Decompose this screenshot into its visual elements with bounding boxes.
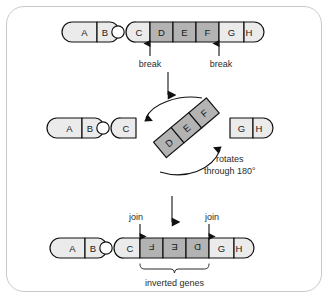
- inv-segment-C-label: C: [127, 243, 134, 254]
- mid-segment-H-label: H: [256, 123, 263, 134]
- segment-A: [62, 22, 97, 42]
- mid-segment-G-label: G: [238, 123, 245, 134]
- segment-H-label: H: [246, 27, 253, 38]
- segment-E-label: E: [181, 27, 187, 38]
- rotation-caption-line1: rotates: [216, 154, 244, 164]
- mid-segment-A-label: A: [66, 123, 73, 134]
- break-label-left: break: [139, 59, 162, 69]
- join-label-right: join: [204, 212, 219, 222]
- segment-F-label: F: [205, 27, 211, 38]
- inv-segment-F-label: F: [148, 242, 154, 253]
- rotating-def-fragment: D E F: [154, 98, 220, 158]
- rotation-caption-line2: through 180°: [204, 166, 256, 176]
- inv-segment-E-label: E: [171, 242, 177, 253]
- diagram-stage: A B C D E F G H break break A B C: [0, 0, 330, 300]
- segment-G-label: G: [228, 27, 235, 38]
- inv-segment-G-label: G: [218, 243, 225, 254]
- centromere: [112, 26, 124, 38]
- mid-segment-C-label: C: [123, 123, 130, 134]
- segment-A-label: A: [81, 27, 88, 38]
- inv-segment-D-label: D: [194, 242, 201, 253]
- break-label-right: break: [210, 59, 233, 69]
- mid-centromere: [97, 122, 109, 134]
- segment-B-label: B: [102, 27, 108, 38]
- middle-panel: A B C D E F G H rotates through 180°: [47, 97, 273, 176]
- inv-segment-A-label: A: [69, 243, 76, 254]
- inv-segment-B-label: B: [90, 243, 96, 254]
- top-chromosome: A B C D E F G H break break: [62, 22, 264, 69]
- inv-segment-H-label: H: [236, 243, 243, 254]
- segment-D-label: D: [158, 27, 165, 38]
- inverted-genes-caption: inverted genes: [145, 278, 205, 288]
- chromosome-inversion-diagram: A B C D E F G H break break A B C: [0, 0, 330, 300]
- segment-C-label: C: [136, 27, 143, 38]
- mid-segment-B-label: B: [87, 123, 93, 134]
- mid-segment-A: [47, 118, 82, 138]
- inv-centromere: [100, 242, 112, 254]
- join-label-left: join: [128, 212, 143, 222]
- inverted-genes-bracket: [140, 264, 209, 273]
- bottom-chromosome: A B C F E D G H join join inverted genes: [50, 212, 254, 288]
- inv-segment-A: [50, 238, 85, 258]
